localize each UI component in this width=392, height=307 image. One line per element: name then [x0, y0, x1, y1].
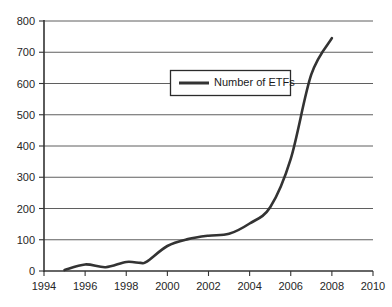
- y-tick-label-800: 800: [17, 15, 35, 27]
- x-tick-label-2006: 2006: [279, 280, 303, 292]
- y-tick-label-500: 500: [17, 109, 35, 121]
- chart-canvas: 0100200300400500600700800 19941996199820…: [0, 0, 392, 307]
- etf-growth-chart: 0100200300400500600700800 19941996199820…: [0, 0, 392, 307]
- x-tick-label-2008: 2008: [320, 280, 344, 292]
- x-tick-label-2000: 2000: [155, 280, 179, 292]
- gridlines-group: [44, 21, 373, 240]
- y-tick-label-300: 300: [17, 171, 35, 183]
- x-tick-label-1998: 1998: [114, 280, 138, 292]
- y-tick-label-600: 600: [17, 78, 35, 90]
- y-tick-label-100: 100: [17, 234, 35, 246]
- y-tick-label-700: 700: [17, 46, 35, 58]
- legend-label-number-of-etfs: Number of ETFs: [214, 76, 295, 88]
- x-tick-label-1994: 1994: [32, 280, 56, 292]
- x-tick-label-2010: 2010: [361, 280, 385, 292]
- y-tick-label-400: 400: [17, 140, 35, 152]
- x-tick-label-1996: 1996: [73, 280, 97, 292]
- x-tick-label-2002: 2002: [196, 280, 220, 292]
- chart-legend: Number of ETFs: [171, 71, 296, 96]
- x-tick-label-2004: 2004: [237, 280, 261, 292]
- y-tick-label-0: 0: [29, 265, 35, 277]
- y-tick-labels-group: 0100200300400500600700800: [17, 15, 35, 277]
- y-tick-label-200: 200: [17, 203, 35, 215]
- x-tick-labels-group: 199419961998200020022004200620082010: [32, 280, 385, 292]
